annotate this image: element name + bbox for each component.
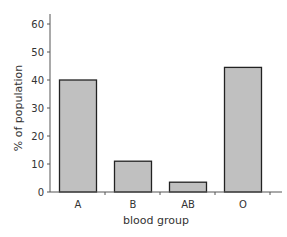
y-tick-label: 0 — [38, 187, 44, 198]
y-tick-label: 20 — [31, 131, 44, 142]
y-tick-label: 50 — [31, 47, 44, 58]
x-axis: ABABO — [50, 192, 282, 210]
bar-a — [60, 80, 97, 192]
y-axis-title: % of population — [12, 65, 25, 152]
y-tick-label: 40 — [31, 75, 44, 86]
y-tick-label: 30 — [31, 103, 44, 114]
x-tick-label: O — [239, 199, 247, 210]
bar-ab — [170, 182, 207, 192]
bars — [60, 67, 262, 192]
x-tick-label: AB — [181, 199, 195, 210]
x-tick-label: B — [130, 199, 137, 210]
bar-b — [115, 161, 152, 192]
y-tick-label: 10 — [31, 159, 44, 170]
y-tick-label: 60 — [31, 19, 44, 30]
y-axis: 0102030405060 — [31, 14, 50, 198]
bar-chart: 0102030405060 ABABO % of population bloo… — [0, 0, 287, 237]
x-axis-title: blood group — [123, 214, 189, 227]
bar-o — [225, 67, 262, 192]
x-tick-label: A — [75, 199, 82, 210]
